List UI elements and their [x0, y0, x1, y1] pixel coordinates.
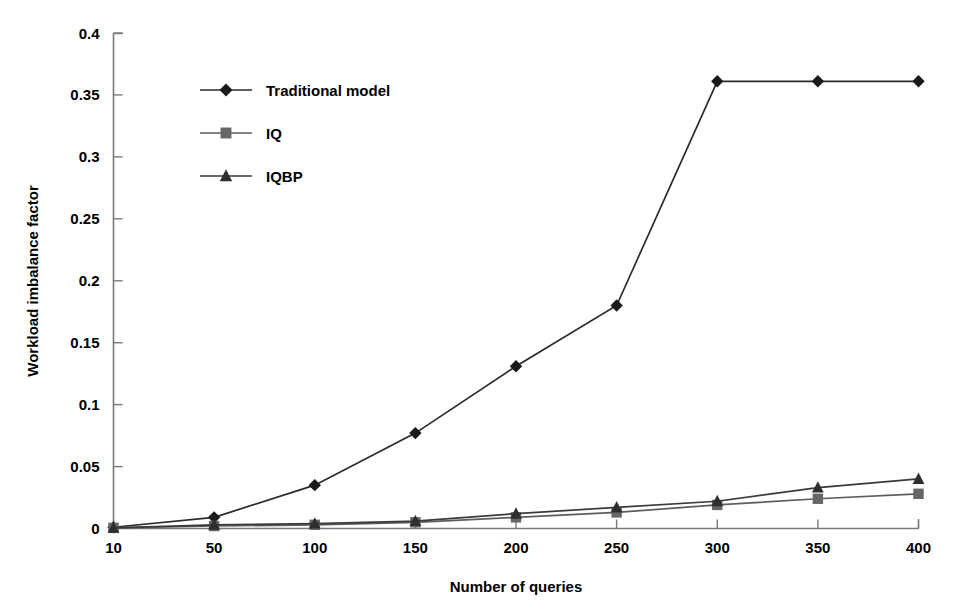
- y-tick-label: 0.4: [79, 25, 101, 42]
- square-marker-icon: [813, 494, 823, 504]
- series-line: [114, 81, 919, 527]
- y-tick-label: 0.3: [79, 148, 100, 165]
- legend-item-traditional-model: Traditional model: [200, 82, 390, 99]
- y-tick-label: 0.25: [70, 210, 99, 227]
- x-tick-label: 200: [503, 539, 528, 556]
- triangle-marker-icon: [913, 473, 925, 484]
- diamond-marker-icon: [812, 75, 824, 87]
- diamond-marker-icon: [610, 299, 622, 311]
- diamond-marker-icon: [711, 75, 723, 87]
- y-tick-group: [114, 33, 123, 467]
- legend-item-iqbp: IQBP: [200, 168, 303, 185]
- y-tick-label: 0.2: [79, 272, 100, 289]
- y-tick-label: 0.1: [79, 396, 100, 413]
- y-tick-label: 0.15: [70, 334, 99, 351]
- square-marker-icon: [221, 128, 232, 139]
- legend-item-iq: IQ: [200, 125, 282, 142]
- series-layer: [107, 75, 924, 533]
- x-tick-label: 300: [705, 539, 730, 556]
- diamond-marker-icon: [912, 75, 924, 87]
- x-tick-label: 350: [805, 539, 830, 556]
- x-axis-title: Number of queries: [450, 578, 583, 595]
- chart-canvas: 00.050.10.150.20.250.30.350.4 1050100150…: [0, 0, 954, 614]
- x-tick-label: 10: [105, 539, 122, 556]
- legend-label: IQBP: [266, 168, 303, 185]
- x-tick-label-group: 1050100150200250300350400: [105, 539, 931, 556]
- square-marker-icon: [913, 489, 923, 499]
- y-tick-label-group: 00.050.10.150.20.250.30.350.4: [70, 25, 100, 538]
- y-tick-label: 0.05: [70, 458, 99, 475]
- chart-figure: 00.050.10.150.20.250.30.350.4 1050100150…: [0, 0, 954, 614]
- chart-legend: Traditional modelIQIQBP: [200, 82, 390, 185]
- legend-label: IQ: [266, 125, 282, 142]
- axes-group: [114, 33, 919, 529]
- diamond-marker-icon: [409, 427, 421, 439]
- series-traditional-model: [107, 75, 924, 533]
- diamond-marker-icon: [219, 83, 232, 96]
- x-tick-label: 50: [206, 539, 223, 556]
- x-tick-label: 150: [403, 539, 428, 556]
- x-tick-label: 400: [906, 539, 931, 556]
- diamond-marker-icon: [510, 360, 522, 372]
- y-tick-label: 0.35: [70, 86, 99, 103]
- y-tick-label: 0: [91, 520, 99, 537]
- legend-label: Traditional model: [266, 82, 390, 99]
- diamond-marker-icon: [309, 479, 321, 491]
- x-tick-label: 250: [604, 539, 629, 556]
- x-tick-label: 100: [302, 539, 327, 556]
- y-axis-title: Workload imbalance factor: [24, 185, 41, 377]
